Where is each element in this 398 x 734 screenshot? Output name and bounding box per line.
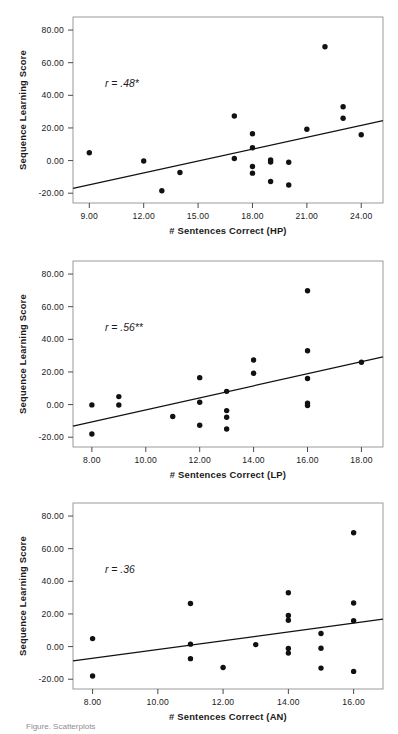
x-tick-label: 12.00: [212, 697, 235, 707]
x-tick-label: 10.00: [135, 455, 158, 465]
data-point: [197, 375, 202, 380]
x-axis-title: # Sentences Correct (AN): [169, 711, 287, 722]
figure-caption: Figure. Scatterplots: [0, 722, 398, 734]
data-point: [286, 182, 291, 187]
x-tick-label: 10.00: [147, 697, 170, 707]
scatter-panel-hp: -20.000.0020.0040.0060.0080.009.0012.001…: [0, 0, 398, 240]
data-point: [177, 170, 182, 175]
x-tick-label: 24.00: [350, 211, 373, 221]
scatter-plot-lp: -20.000.0020.0040.0060.0080.008.0010.001…: [0, 244, 398, 484]
y-axis-title: Sequence Learning Score: [17, 50, 28, 170]
x-tick-label: 12.00: [188, 455, 211, 465]
y-tick-label: 40.00: [41, 334, 64, 344]
data-point: [305, 288, 310, 293]
correlation-annotation: r = .36: [105, 564, 135, 575]
data-point: [286, 160, 291, 165]
data-point: [305, 403, 310, 408]
data-point: [286, 650, 291, 655]
data-point: [318, 646, 323, 651]
data-point: [253, 642, 258, 647]
scatter-panel-an: -20.000.0020.0040.0060.0080.008.0010.001…: [0, 486, 398, 726]
x-tick-label: 18.00: [241, 211, 264, 221]
data-point: [159, 188, 164, 193]
data-point: [89, 402, 94, 407]
y-tick-label: 40.00: [41, 90, 64, 100]
scatter-plot-hp: -20.000.0020.0040.0060.0080.009.0012.001…: [0, 0, 398, 240]
data-point: [90, 636, 95, 641]
data-point: [351, 600, 356, 605]
x-tick-label: 8.00: [84, 697, 102, 707]
y-tick-label: 40.00: [41, 576, 64, 586]
data-point: [116, 402, 121, 407]
x-tick-label: 8.00: [83, 455, 101, 465]
data-point: [116, 394, 121, 399]
correlation-annotation: r = .48*: [105, 78, 140, 89]
plot-frame: [73, 503, 383, 689]
data-point: [250, 131, 255, 136]
x-tick-label: 12.00: [132, 211, 155, 221]
data-point: [232, 156, 237, 161]
data-point: [224, 426, 229, 431]
y-tick-label: 0.00: [46, 156, 64, 166]
data-point: [224, 408, 229, 413]
x-tick-label: 14.00: [277, 697, 300, 707]
data-point: [304, 127, 309, 132]
scatter-plot-an: -20.000.0020.0040.0060.0080.008.0010.001…: [0, 486, 398, 726]
data-point: [251, 357, 256, 362]
x-tick-label: 14.00: [242, 455, 265, 465]
data-point: [286, 613, 291, 618]
data-point: [305, 348, 310, 353]
y-tick-label: 60.00: [41, 544, 64, 554]
y-axis-title: Sequence Learning Score: [17, 536, 28, 656]
y-tick-label: 20.00: [41, 123, 64, 133]
data-point: [340, 104, 345, 109]
x-tick-label: 9.00: [81, 211, 99, 221]
plot-frame: [73, 17, 383, 203]
data-point: [351, 618, 356, 623]
data-point: [340, 116, 345, 121]
y-tick-label: -20.00: [38, 674, 64, 684]
data-point: [220, 665, 225, 670]
data-point: [268, 179, 273, 184]
data-point: [322, 44, 327, 49]
data-point: [250, 170, 255, 175]
data-point: [188, 601, 193, 606]
y-tick-label: 0.00: [46, 400, 64, 410]
data-point: [359, 132, 364, 137]
data-point: [141, 158, 146, 163]
x-tick-label: 21.00: [296, 211, 319, 221]
data-point: [224, 415, 229, 420]
data-point: [250, 145, 255, 150]
data-point: [359, 360, 364, 365]
y-tick-label: -20.00: [38, 188, 64, 198]
y-axis-title: Sequence Learning Score: [17, 294, 28, 414]
data-point: [318, 631, 323, 636]
y-tick-label: 80.00: [41, 25, 64, 35]
data-point: [268, 159, 273, 164]
x-tick-label: 15.00: [187, 211, 210, 221]
x-axis-title: # Sentences Correct (LP): [170, 469, 286, 480]
data-point: [170, 414, 175, 419]
data-point: [318, 665, 323, 670]
data-point: [89, 431, 94, 436]
y-tick-label: 60.00: [41, 302, 64, 312]
data-point: [251, 371, 256, 376]
y-tick-label: 80.00: [41, 511, 64, 521]
y-tick-label: -20.00: [38, 432, 64, 442]
data-point: [188, 656, 193, 661]
y-tick-label: 20.00: [41, 367, 64, 377]
data-point: [197, 400, 202, 405]
y-tick-label: 60.00: [41, 58, 64, 68]
x-tick-label: 18.00: [350, 455, 373, 465]
data-point: [286, 590, 291, 595]
data-point: [197, 423, 202, 428]
data-point: [90, 673, 95, 678]
correlation-annotation: r = .56**: [105, 322, 144, 333]
data-point: [87, 150, 92, 155]
y-tick-label: 20.00: [41, 609, 64, 619]
data-point: [351, 669, 356, 674]
data-point: [188, 641, 193, 646]
y-tick-label: 0.00: [46, 642, 64, 652]
data-point: [305, 376, 310, 381]
data-point: [286, 618, 291, 623]
